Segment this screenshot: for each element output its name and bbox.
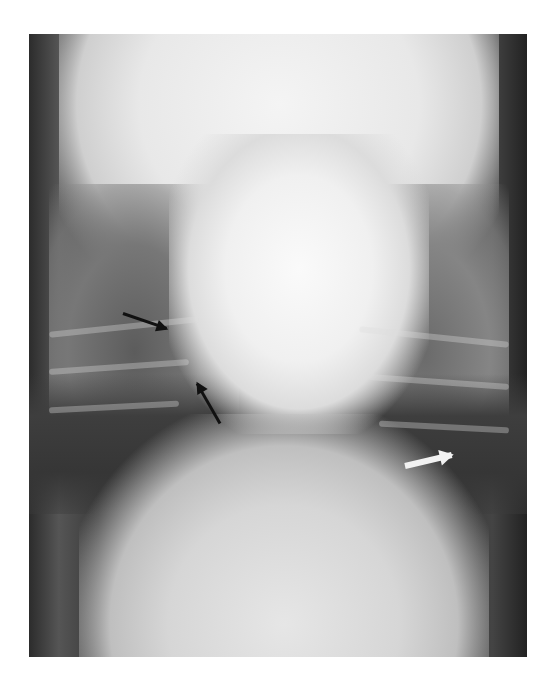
abdominal-dome <box>79 414 489 657</box>
radiograph-image <box>29 34 527 657</box>
cardiac-silhouette <box>169 134 429 434</box>
